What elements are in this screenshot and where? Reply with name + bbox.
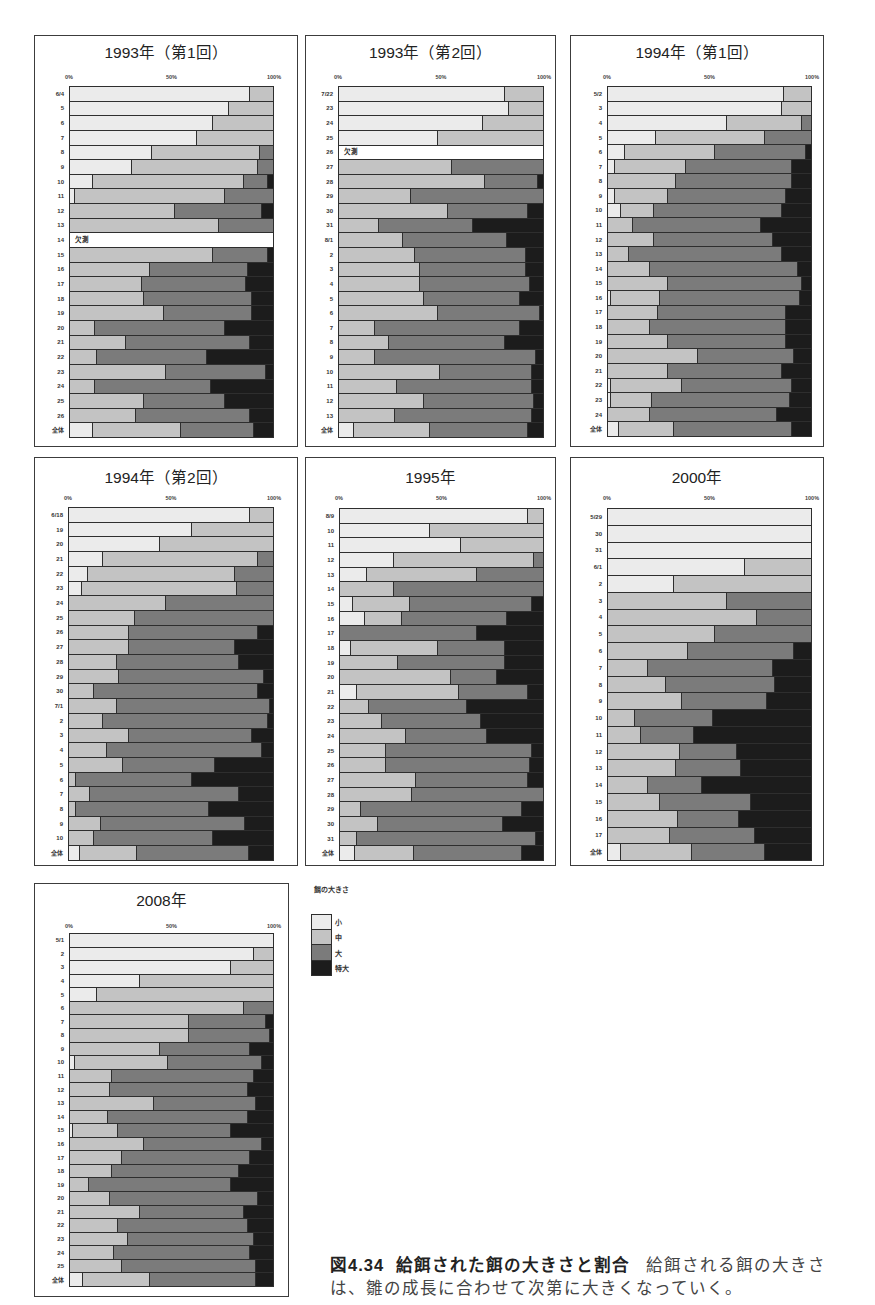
bar-segment-extra-large xyxy=(224,394,273,408)
bar-segment-medium xyxy=(339,277,419,291)
bar-row: 24 xyxy=(70,379,273,394)
row-label: 11 xyxy=(327,383,333,389)
row-label: 15 xyxy=(595,280,602,286)
bar-row: 14 xyxy=(340,581,543,596)
row-label: 22 xyxy=(327,704,334,710)
bar-row: 全体 xyxy=(69,845,273,860)
bar-row: 18 xyxy=(70,291,273,306)
bar-segment-small xyxy=(69,523,191,537)
bar-segment-extra-large xyxy=(805,145,811,159)
bar-segment-large xyxy=(106,743,261,757)
x-axis-ticks: 0%50%100% xyxy=(607,74,812,81)
bar-segment-extra-large xyxy=(531,744,543,758)
bar-segment-large xyxy=(677,811,738,827)
bar-segment-medium xyxy=(744,559,811,575)
bar-segment-large xyxy=(691,844,764,860)
row-label: 6/1 xyxy=(594,564,602,570)
row-label: 11 xyxy=(596,222,602,228)
row-label: 5 xyxy=(330,296,333,302)
bar-row: 3 xyxy=(608,101,811,116)
bar-segment-medium xyxy=(340,656,397,670)
bar-row: 4 xyxy=(69,742,273,757)
bar-segment-medium xyxy=(74,1056,167,1069)
bar-segment-large xyxy=(681,693,766,709)
bar-segment-extra-large xyxy=(506,612,543,626)
bar-row: 6/1 xyxy=(608,558,811,575)
bar-segment-large xyxy=(667,189,785,203)
row-label: 20 xyxy=(327,674,334,680)
bar-segment-small xyxy=(70,146,151,160)
bar-row: 11 xyxy=(608,217,811,232)
bar-segment-medium xyxy=(340,744,385,758)
bar-segment-extra-large xyxy=(255,1097,273,1110)
bar-segment-medium xyxy=(70,1070,111,1083)
bar-segment-extra-large xyxy=(506,233,543,247)
bar-row: 30 xyxy=(340,816,543,831)
bar-segment-medium xyxy=(608,408,649,422)
row-label: 14 xyxy=(595,782,602,788)
row-label: 29 xyxy=(326,193,333,199)
chart-title: 1994年（第1回） xyxy=(571,45,823,61)
bar-row: 15 xyxy=(340,596,543,611)
legend-label: 小 xyxy=(335,917,342,927)
bar-segment-extra-large xyxy=(243,1206,273,1219)
bar-segment-medium xyxy=(70,380,94,394)
bar-segment-medium xyxy=(69,787,89,801)
bar-row: 23 xyxy=(70,1232,273,1246)
bar-segment-extra-large xyxy=(261,743,273,757)
caption-body: は、雛の成長に合わせて次第に大きくなっていく。 xyxy=(330,1279,743,1298)
bar-segment-large xyxy=(236,582,273,596)
bar-segment-small xyxy=(69,567,87,581)
bar-row: 23 xyxy=(340,713,543,728)
row-label: 12 xyxy=(595,749,602,755)
bar-segment-extra-large xyxy=(480,714,543,728)
bar-segment-medium xyxy=(70,292,143,306)
bar-segment-extra-large xyxy=(269,1029,273,1042)
bar-segment-extra-large xyxy=(253,1233,273,1246)
bar-segment-large xyxy=(394,409,531,423)
bar-segment-medium xyxy=(608,335,667,349)
bar-segment-large xyxy=(628,247,780,261)
bar-segment-medium xyxy=(70,1097,153,1110)
bar-segment-medium xyxy=(608,610,756,626)
bar-segment-large xyxy=(675,760,740,776)
bar-segment-medium xyxy=(81,582,236,596)
bar-segment-medium xyxy=(69,729,128,743)
bar-row: 6 xyxy=(70,1001,273,1015)
row-label: 全体 xyxy=(590,849,602,855)
bar-row: 27 xyxy=(69,639,273,654)
bar-segment-large xyxy=(533,553,543,567)
bar-segment-medium xyxy=(69,655,116,669)
bar-row: 16 xyxy=(70,1137,273,1151)
bar-row: 26 xyxy=(70,408,273,423)
bar-row: 6/4 xyxy=(70,87,273,101)
row-label: 7 xyxy=(61,135,64,141)
bar-segment-large xyxy=(134,611,273,625)
row-label: 9 xyxy=(599,193,602,199)
bar-segment-large xyxy=(165,365,264,379)
bar-row: 24 xyxy=(608,407,811,422)
bar-segment-extra-large xyxy=(712,710,811,726)
bar-segment-large xyxy=(135,409,249,423)
bar-row: 5 xyxy=(608,625,811,642)
row-label: 全体 xyxy=(52,427,64,433)
bar-segment-medium xyxy=(339,365,439,379)
bar-segment-extra-large xyxy=(527,685,543,699)
bar-segment-medium xyxy=(610,379,681,393)
bar-row: 17 xyxy=(70,1150,273,1164)
bar-segment-large xyxy=(388,336,504,350)
bar-segment-small xyxy=(339,102,508,116)
bar-segment-extra-large xyxy=(529,277,543,291)
bar-segment-large xyxy=(188,1015,265,1028)
x-tick-label: 100% xyxy=(267,923,281,930)
bar-segment-extra-large xyxy=(781,204,811,218)
row-label: 19 xyxy=(595,339,602,345)
bar-segment-medium xyxy=(228,102,273,116)
caption-line-1: 図4.34給餌された餌の大きさと割合給餌される餌の大きさ xyxy=(330,1254,870,1277)
row-label: 23 xyxy=(327,718,334,724)
row-label: 25 xyxy=(326,135,333,141)
bar-row: 7 xyxy=(70,1014,273,1028)
bar-segment-extra-large xyxy=(265,365,273,379)
bar-row: 15 xyxy=(608,276,811,291)
row-label: 21 xyxy=(56,556,63,562)
